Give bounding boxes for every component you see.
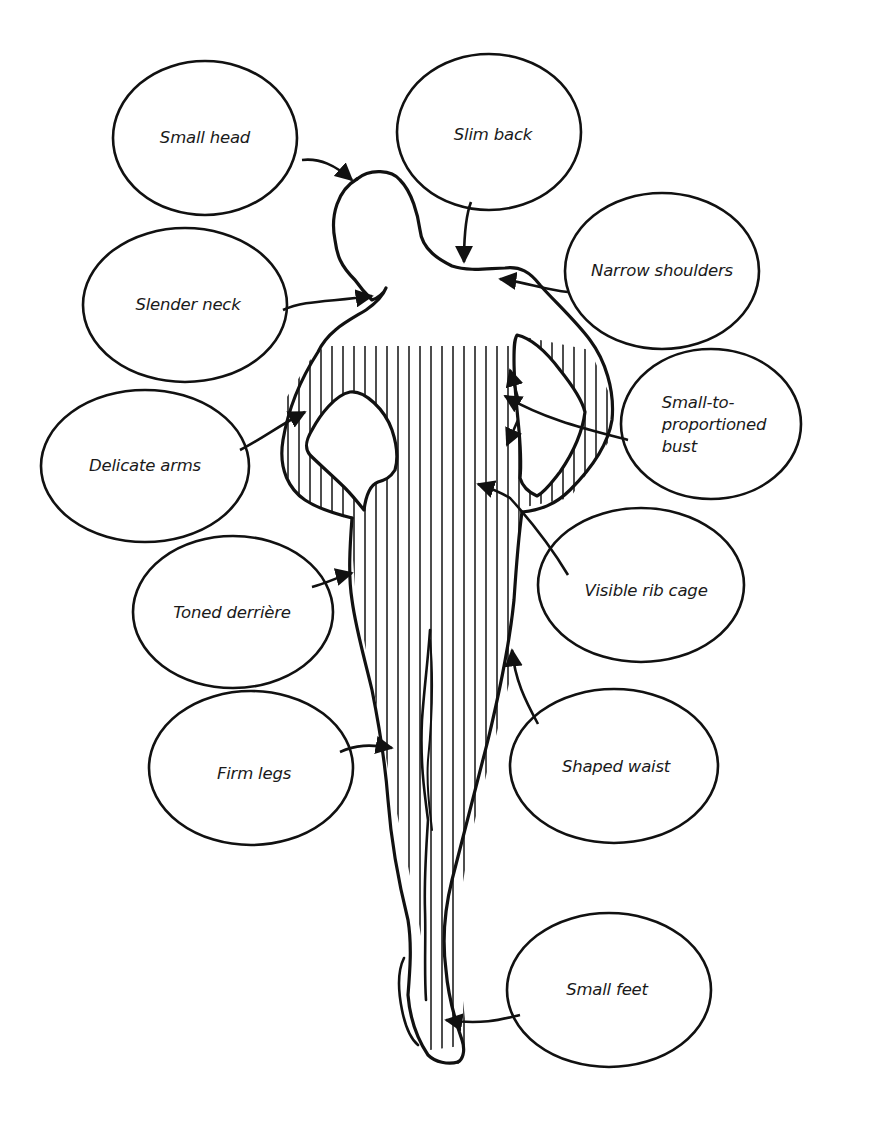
arrow-shaped-waist	[512, 650, 538, 724]
label-firm-legs: Firm legs	[217, 763, 291, 785]
figure-silhouette	[278, 172, 613, 1064]
arrow-slim-back	[464, 202, 471, 262]
arrow-toned-derriere	[312, 573, 352, 587]
body-shape-diagram: Small head Slim back Narrow shoulders Sl…	[0, 0, 869, 1128]
label-delicate-arms: Delicate arms	[89, 455, 201, 477]
diagram-canvas	[0, 0, 869, 1128]
label-slim-back: Slim back	[454, 124, 532, 146]
arrow-small-head	[302, 160, 352, 180]
label-shaped-waist: Shaped waist	[562, 756, 670, 778]
label-small-head: Small head	[160, 127, 250, 149]
label-small-to-proportioned-bust: Small-to- proportioned bust	[662, 392, 767, 458]
label-slender-neck: Slender neck	[135, 294, 240, 316]
label-toned-derriere: Toned derrière	[173, 602, 291, 624]
arrow-slender-neck	[283, 296, 372, 310]
label-narrow-shoulders: Narrow shoulders	[591, 260, 733, 282]
arrow-narrow-shoulders	[500, 279, 568, 292]
label-small-feet: Small feet	[566, 979, 648, 1001]
label-visible-rib-cage: Visible rib cage	[584, 580, 707, 602]
